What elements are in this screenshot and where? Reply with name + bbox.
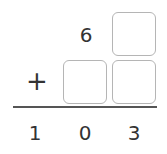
result-hundreds-digit: 1 [25, 123, 45, 143]
second-ones-answer-box[interactable] [112, 60, 156, 104]
result-ones-digit: 3 [124, 123, 144, 143]
top-ones-answer-box[interactable] [112, 12, 156, 56]
top-tens-digit: 6 [76, 25, 96, 45]
sum-rule-divider [13, 106, 157, 108]
result-tens-digit: 0 [75, 123, 95, 143]
plus-operator: + [26, 68, 48, 94]
second-tens-answer-box[interactable] [63, 60, 107, 104]
